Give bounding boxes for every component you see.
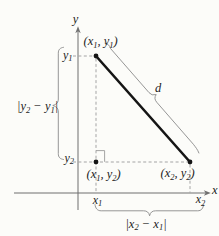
diagonal-distance-brace: [105, 43, 199, 153]
x-axis-label: x: [211, 183, 218, 197]
tick-label-y1: y1: [62, 48, 73, 64]
point-x1-y1: [94, 54, 99, 59]
disth-close: |: [163, 217, 166, 231]
tick-label-x1: x1: [92, 193, 103, 209]
point-label-x1y1: (x1, y1): [84, 34, 118, 50]
p1-close: ): [113, 34, 118, 48]
tick-label-y2: y2: [63, 151, 74, 167]
y-axis-label: y: [71, 12, 79, 26]
point-label-x1y2: (x1, y2): [87, 167, 121, 183]
p1-mid: , y: [97, 34, 109, 48]
disth-mid: − x: [139, 217, 160, 231]
p12-mid: , y: [100, 167, 112, 181]
horizontal-distance-label: |x2 − x1|: [125, 217, 166, 233]
p12-open: (x: [87, 167, 97, 181]
p1-open: (x: [84, 34, 94, 48]
tick-y2-sub: 2: [70, 156, 75, 166]
p2-open: (x: [161, 166, 171, 180]
p2-mid: , y: [174, 166, 186, 180]
distv-close: |: [55, 99, 58, 113]
tick-y1-sub: 1: [68, 53, 72, 63]
horizontal-distance-brace: [95, 205, 204, 216]
d-label: d: [155, 81, 162, 95]
figure-canvas: y x (x1, y1) (x1, y2) (x2, y2) y1 y2 x1 …: [0, 0, 219, 236]
tick-label-x2: x2: [195, 192, 206, 208]
point-x1-y2: [94, 160, 99, 165]
segment-hypotenuse: [96, 56, 190, 162]
tick-x2-sub: 2: [201, 198, 206, 208]
tick-x1-sub: 1: [98, 198, 102, 208]
p12-close: ): [116, 167, 121, 181]
point-label-x2y2: (x2, y2): [161, 166, 195, 182]
distance-formula-diagram: y x (x1, y1) (x1, y2) (x2, y2) y1 y2 x1 …: [0, 0, 219, 236]
p2-close: ): [190, 166, 195, 180]
vertical-distance-label: |y2 − y1|: [17, 99, 58, 115]
distv-mid: − y: [30, 99, 51, 113]
point-x2-y2: [188, 160, 193, 165]
